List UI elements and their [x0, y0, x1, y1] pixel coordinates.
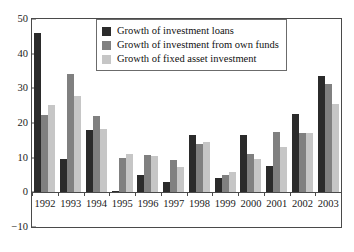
x-axis-tick-mark: [212, 192, 213, 196]
bar: [306, 133, 313, 193]
x-axis-label-1996: 1996: [135, 199, 161, 210]
x-axis-tick-mark: [109, 192, 110, 196]
bar: [163, 182, 170, 193]
bar: [34, 33, 41, 192]
x-axis-tick-mark: [187, 192, 188, 196]
bar: [119, 158, 126, 193]
y-axis-tick-label: −10: [12, 222, 32, 233]
x-axis-label-2001: 2001: [264, 199, 290, 210]
x-axis-tick-cell: [212, 192, 238, 196]
x-axis-tick-cell: [161, 192, 187, 196]
bar: [60, 159, 67, 192]
x-axis-label-1998: 1998: [187, 199, 213, 210]
x-axis-label-1992: 1992: [32, 199, 58, 210]
x-axis-label-1997: 1997: [161, 199, 187, 210]
x-axis-tick-cell: [109, 192, 135, 196]
bar: [203, 142, 210, 192]
bar: [325, 84, 332, 192]
bar-group: [58, 19, 84, 192]
x-axis-label-1994: 1994: [84, 199, 110, 210]
x-axis-label-2003: 2003: [315, 199, 341, 210]
bar-group: [290, 19, 316, 192]
x-axis-tick-cell: [315, 192, 341, 196]
x-axis-tick-mark: [58, 192, 59, 196]
legend-swatch-icon: [102, 27, 111, 36]
y-axis-tick-label: 10: [18, 152, 33, 163]
bar: [189, 135, 196, 192]
bar: [86, 130, 93, 192]
bar: [318, 76, 325, 192]
x-axis-label-2000: 2000: [238, 199, 264, 210]
x-axis-tick-mark: [84, 192, 85, 196]
bar: [196, 144, 203, 192]
chart-legend: Growth of investment loansGrowth of inve…: [96, 19, 287, 71]
y-axis-tick-label: 20: [18, 118, 33, 129]
bar: [332, 104, 339, 193]
bar: [144, 155, 151, 192]
y-axis-tick-mark: [32, 227, 36, 228]
bar: [126, 154, 133, 192]
bar: [177, 167, 184, 193]
x-axis-tick-mark: [32, 192, 33, 196]
x-axis-tick-mark: [264, 192, 265, 196]
legend-label: Growth of fixed asset investment: [117, 54, 256, 65]
bar: [100, 129, 107, 192]
bar: [229, 172, 236, 192]
x-axis-tick-mark: [135, 192, 136, 196]
x-axis-tick-cell: [238, 192, 264, 196]
x-axis-tick-cell: [290, 192, 316, 196]
bar-chart-figure: 50403020100−10 1992199319941995199619971…: [0, 0, 354, 252]
bar: [280, 147, 287, 192]
legend-item: Growth of investment loans: [102, 24, 279, 38]
y-axis-tick-label: 40: [18, 48, 33, 59]
bar: [247, 154, 254, 193]
x-axis-label-1993: 1993: [58, 199, 84, 210]
x-axis-ticks: [32, 192, 341, 196]
y-axis-tick-label: 30: [18, 83, 33, 94]
legend-item: Growth of investment from own funds: [102, 38, 279, 52]
bar: [93, 116, 100, 192]
y-axis-tick-label: 50: [18, 14, 33, 25]
legend-item: Growth of fixed asset investment: [102, 52, 279, 66]
bar: [222, 175, 229, 192]
legend-label: Growth of investment loans: [117, 26, 234, 37]
bar: [240, 135, 247, 193]
x-axis-tick-mark: [161, 192, 162, 196]
bar: [215, 178, 222, 192]
bar: [266, 166, 273, 193]
x-axis-tick-cell: [264, 192, 290, 196]
bar: [137, 175, 144, 192]
bar: [151, 156, 158, 192]
x-axis-tick-cell: [58, 192, 84, 196]
bar: [170, 160, 177, 192]
bar: [74, 96, 81, 192]
bar: [299, 133, 306, 193]
x-axis-label-1995: 1995: [109, 199, 135, 210]
bar: [273, 132, 280, 192]
legend-swatch-icon: [102, 55, 111, 64]
x-axis-label-1999: 1999: [212, 199, 238, 210]
y-axis-tick-label: 0: [23, 187, 32, 198]
x-axis-tick-mark: [290, 192, 291, 196]
x-axis-tick-cell: [187, 192, 213, 196]
legend-swatch-icon: [102, 41, 111, 50]
bar: [48, 105, 55, 192]
x-axis-tick-mark: [315, 192, 316, 196]
bar: [41, 115, 48, 192]
bar: [254, 159, 261, 192]
legend-label: Growth of investment from own funds: [117, 40, 279, 51]
bar: [292, 114, 299, 193]
bar-group: [315, 19, 341, 192]
x-axis-tick-mark: [238, 192, 239, 196]
x-axis-tick-cell: [135, 192, 161, 196]
bar-group: [32, 19, 58, 192]
x-axis-label-2002: 2002: [290, 199, 316, 210]
x-axis-labels: 1992199319941995199619971998199920002001…: [32, 199, 341, 210]
bar: [67, 74, 74, 192]
x-axis-tick-cell: [32, 192, 58, 196]
x-axis-tick-cell: [84, 192, 110, 196]
